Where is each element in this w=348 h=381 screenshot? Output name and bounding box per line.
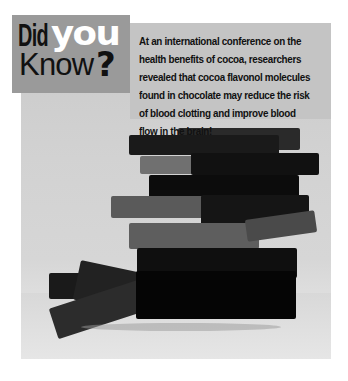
- chocolate-piece: [111, 196, 211, 218]
- chocolate-piece: [136, 271, 296, 319]
- fact-text: At an international conference on the he…: [139, 32, 316, 140]
- title-know: Know: [19, 49, 93, 80]
- chocolate-shadow: [81, 323, 281, 331]
- question-mark-icon: ?: [96, 47, 116, 81]
- chocolate-piece: [129, 223, 259, 249]
- chocolate-piece: [191, 153, 319, 175]
